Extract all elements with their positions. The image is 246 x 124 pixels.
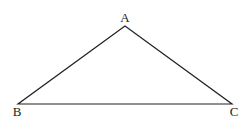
vertex-label-c: C (230, 104, 239, 119)
triangle-abc (18, 26, 232, 104)
vertex-label-b: B (13, 104, 22, 119)
vertex-label-a: A (120, 10, 130, 25)
triangle-diagram: A B C (0, 0, 246, 124)
